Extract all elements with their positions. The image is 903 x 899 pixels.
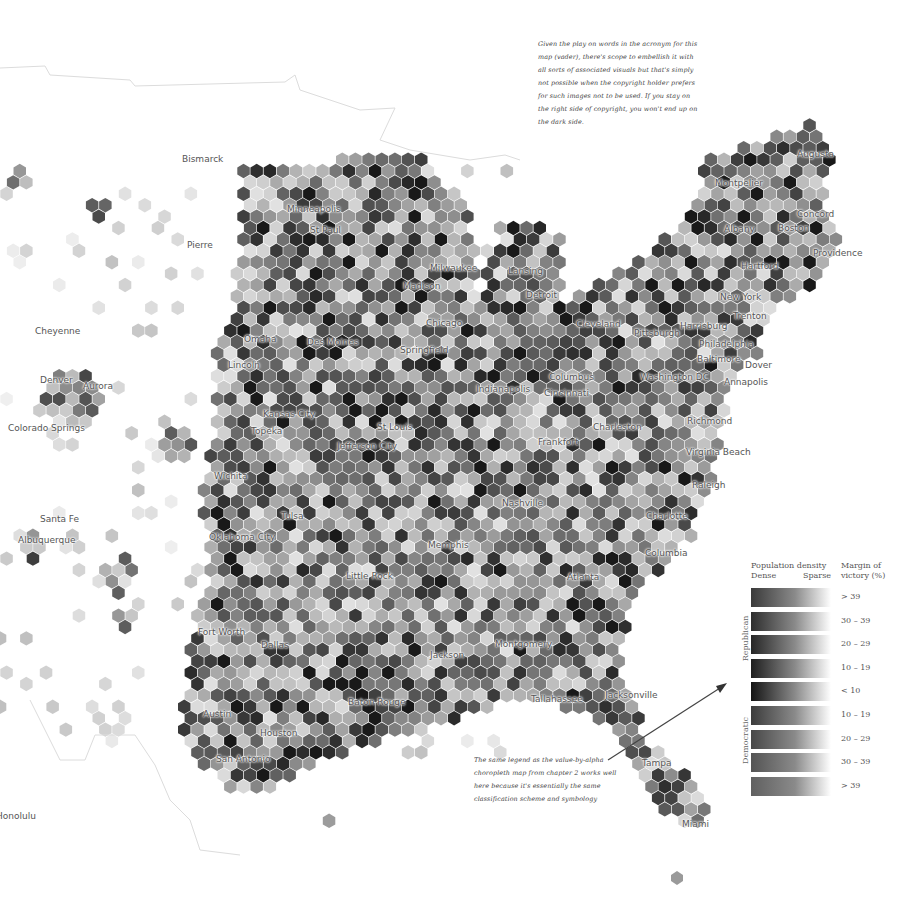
city-label: Providence [813, 249, 863, 258]
city-label: Tulsa [281, 512, 304, 521]
legend-row-label: 20 – 29 [841, 639, 870, 648]
city-label: Tallahassee [531, 695, 583, 704]
city-label: Nashville [502, 499, 543, 508]
legend-row-label: 10 – 19 [841, 710, 870, 719]
legend-row-label: < 10 [841, 686, 860, 695]
city-label: Santa Fe [40, 515, 79, 524]
city-label: Concord [797, 210, 834, 219]
city-label: Augusta [797, 150, 834, 159]
city-label: Dallas [261, 641, 289, 650]
city-label: Dover [745, 361, 772, 370]
city-label: Harrisburg [680, 322, 727, 331]
legend-swatch [751, 659, 831, 678]
legend-swatch [751, 730, 831, 749]
city-label: Baltimore [697, 355, 741, 364]
city-label: Honolulu [0, 812, 36, 821]
city-label: Raleigh [692, 481, 726, 490]
city-label: Virginia Beach [686, 448, 751, 457]
city-label: Columbus [549, 373, 594, 382]
legend-row-label: 30 – 39 [841, 757, 870, 766]
legend-swatch [751, 635, 831, 654]
city-label: Memphis [428, 541, 469, 550]
city-label: Tampa [642, 759, 672, 768]
city-label: San Antonio [216, 755, 270, 764]
city-label: Frankfort [538, 438, 579, 447]
city-label: Pittsburgh [634, 329, 680, 338]
city-label: Kansas City [263, 410, 315, 419]
city-label: Austin [203, 710, 231, 719]
city-label: St Louis [377, 423, 412, 432]
city-label: Wichita [214, 472, 247, 481]
legend-sparse-label: Sparse [803, 571, 831, 581]
city-label: Miami [682, 820, 709, 829]
legend-row-label: 10 – 19 [841, 663, 870, 672]
legend-swatch [751, 612, 831, 631]
city-label: Philadelphia [699, 340, 754, 349]
city-label: Colorado Springs [8, 424, 85, 433]
city-label: Cheyenne [35, 327, 80, 336]
city-label: Washington DC [640, 373, 709, 382]
city-label: Cleveland [576, 320, 621, 329]
city-label: Little Rock [346, 572, 393, 581]
city-label: Pierre [187, 241, 213, 250]
city-label: Houston [260, 729, 297, 738]
city-label: Montgomery [495, 640, 552, 649]
legend-swatch [751, 753, 831, 772]
legend-swatch [751, 588, 831, 607]
city-label: Albuquerque [18, 536, 76, 545]
city-label: Annapolis [724, 378, 768, 387]
city-label: Charlotte [646, 512, 688, 521]
annotation-top: Given the play on words in the acronym f… [538, 38, 698, 129]
city-label: Topeka [251, 427, 282, 436]
legend-density-title: Population density [751, 561, 826, 571]
legend-swatch [751, 777, 831, 796]
legend: Population density Dense Sparse Margin o… [748, 560, 903, 790]
legend-row-label: 20 – 29 [841, 734, 870, 743]
city-label: Baton Rouge [348, 698, 406, 707]
legend-democratic-label: Democratic [741, 706, 750, 776]
legend-row-label: > 39 [841, 781, 860, 790]
legend-swatch [751, 682, 831, 701]
city-label: Bismarck [182, 155, 223, 164]
city-label: Springfield [400, 346, 448, 355]
legend-margin-title-2: victory (%) [841, 571, 885, 581]
legend-row-label: > 39 [841, 592, 860, 601]
city-label: Lansing [508, 267, 543, 276]
city-label: Columbia [645, 549, 688, 558]
legend-row-label: 30 – 39 [841, 616, 870, 625]
city-label: Jackson [430, 651, 464, 660]
city-label: Albany [724, 225, 755, 234]
city-label: Hartford [741, 262, 778, 271]
city-label: Atlanta [567, 573, 599, 582]
city-label: Jacksonville [605, 691, 658, 700]
legend-dense-label: Dense [751, 571, 776, 581]
city-label: Des Moines [307, 338, 359, 347]
city-label: Lincoln [228, 361, 260, 370]
city-label: Richmond [687, 417, 732, 426]
city-label: Denver [40, 376, 73, 385]
city-label: Madison [403, 282, 440, 291]
city-label: New York [720, 293, 761, 302]
city-label: Trenton [733, 312, 767, 321]
city-label: Aurora [83, 382, 113, 391]
city-label: Milwaukee [430, 264, 477, 273]
city-label: Indianapolis [476, 385, 530, 394]
city-label: Minneapolis [287, 205, 341, 214]
city-label: Chicago [426, 319, 462, 328]
city-label: Detroit [526, 291, 557, 300]
city-label: Cincinnati [544, 389, 589, 398]
city-label: St Paul [310, 226, 341, 235]
legend-swatch [751, 706, 831, 725]
city-label: Jefferson City [337, 442, 397, 451]
annotation-bottom: The same legend as the value-by-alpha ch… [474, 754, 619, 806]
city-label: Omaha [244, 335, 277, 344]
city-label: Charleston [593, 423, 642, 432]
city-label: Oklahoma City [209, 533, 275, 542]
city-label: Fort Worth [198, 628, 245, 637]
legend-margin-title: Margin of [841, 561, 881, 571]
city-label: Boston [778, 224, 809, 233]
city-label: Montpelier [715, 179, 763, 188]
legend-republican-label: Republican [741, 604, 750, 674]
